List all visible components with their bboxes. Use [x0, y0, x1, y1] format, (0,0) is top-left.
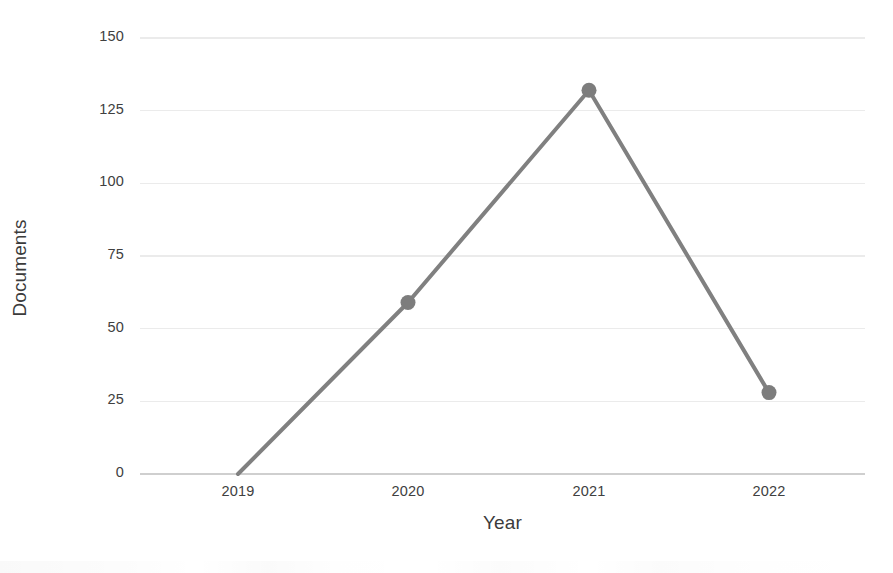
x-axis-tick-label: 2022 [724, 483, 814, 499]
y-axis-tick-label: 0 [72, 464, 124, 480]
data-point-marker[interactable] [762, 385, 777, 400]
y-axis-tick-label: 150 [72, 28, 124, 44]
y-axis-tick-label: 25 [72, 391, 124, 407]
x-axis-tick-label: 2021 [544, 483, 634, 499]
y-axis-tick-label: 125 [72, 101, 124, 117]
series-line-group [238, 90, 769, 474]
y-axis-tick-label: 100 [72, 173, 124, 189]
data-point-marker[interactable] [401, 295, 416, 310]
x-axis-tick-label: 2020 [363, 483, 453, 499]
line-chart: Documents Year 0255075100125150 20192020… [0, 0, 893, 573]
y-axis-tick-label: 75 [72, 246, 124, 262]
series-line [238, 90, 769, 474]
y-axis-tick-label: 50 [72, 319, 124, 335]
series-marker-group [401, 83, 777, 400]
data-point-marker[interactable] [582, 83, 597, 98]
x-axis-tick-label: 2019 [193, 483, 283, 499]
gridlines [140, 38, 865, 474]
